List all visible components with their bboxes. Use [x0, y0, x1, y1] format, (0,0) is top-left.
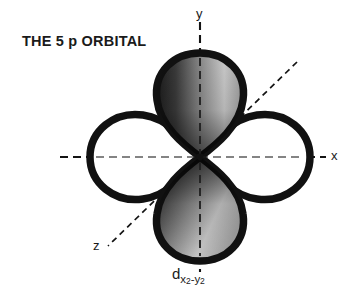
x-axis-label: x [331, 148, 338, 163]
orbital-figure: THE 5 p ORBITAL y x z dx2-y2 [0, 0, 348, 305]
orbital-caption-subscript: x2-y2 [180, 273, 204, 285]
y-axis-label: y [196, 6, 203, 21]
subscript-y-exponent: 2 [200, 276, 205, 286]
figure-title: THE 5 p ORBITAL [22, 33, 146, 49]
z-axis-label: z [93, 238, 100, 253]
orbital-caption: dx2-y2 [172, 266, 205, 285]
origin-point [197, 154, 204, 161]
